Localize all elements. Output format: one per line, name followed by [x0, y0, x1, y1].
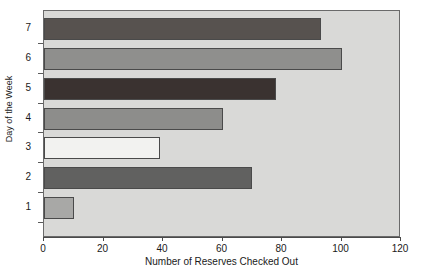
bar-day-4	[44, 108, 223, 130]
x-tick-mark	[400, 237, 401, 241]
bar-day-3	[44, 137, 160, 159]
x-tick-label-100: 100	[332, 243, 349, 254]
x-tick-mark	[103, 237, 104, 241]
x-tick-label-40: 40	[156, 243, 167, 254]
bar-day-5	[44, 78, 276, 100]
bars-layer	[44, 11, 399, 236]
y-tick-label-7: 7	[25, 23, 31, 33]
x-tick-mark	[162, 237, 163, 241]
y-tick-label-3: 3	[25, 142, 31, 152]
bar-day-1	[44, 197, 74, 219]
plot-area	[43, 10, 400, 237]
bar-day-7	[44, 18, 321, 40]
bar-day-2	[44, 167, 252, 189]
bar-day-6	[44, 48, 342, 70]
x-tick-mark	[43, 237, 44, 241]
x-tick-label-60: 60	[216, 243, 227, 254]
x-tick-label-120: 120	[392, 243, 409, 254]
x-tick-label-0: 0	[40, 243, 46, 254]
x-tick-mark	[281, 237, 282, 241]
x-tick-label-80: 80	[275, 243, 286, 254]
x-tick-mark	[341, 237, 342, 241]
x-tick-mark	[222, 237, 223, 241]
y-tick-label-4: 4	[25, 113, 31, 123]
x-axis-title: Number of Reserves Checked Out	[43, 256, 400, 267]
y-tick-label-5: 5	[25, 83, 31, 93]
y-tick-label-1: 1	[25, 202, 31, 212]
y-axis-title: Day of the Week	[4, 49, 14, 169]
x-tick-label-20: 20	[97, 243, 108, 254]
y-tick-label-6: 6	[25, 53, 31, 63]
bar-chart: 1234567 Day of the Week Number of Reserv…	[0, 0, 428, 271]
y-tick-label-2: 2	[25, 172, 31, 182]
